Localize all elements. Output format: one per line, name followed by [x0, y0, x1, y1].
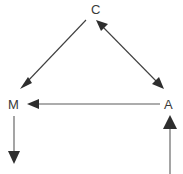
- edge-m-downward: [8, 116, 20, 164]
- edge-into-a-upward-arrowhead: [163, 115, 177, 129]
- diagram-canvas: [0, 0, 183, 174]
- causal-diagram: C M A: [0, 0, 183, 174]
- edge-a-to-m-arrowhead: [27, 99, 39, 109]
- edge-c-to-m: [20, 20, 86, 89]
- edge-c-a-bidirectional: [96, 20, 164, 89]
- node-label-c: C: [91, 3, 100, 16]
- edge-c-a-line: [101, 25, 158, 83]
- edge-m-downward-arrowhead: [8, 151, 20, 164]
- node-label-m: M: [8, 98, 19, 111]
- edge-a-to-m: [27, 99, 160, 109]
- edge-into-a-upward: [163, 115, 177, 174]
- edge-c-to-m-line: [26, 20, 86, 83]
- node-label-a: A: [164, 98, 173, 111]
- edge-c-a-arrowhead-at-c: [96, 20, 108, 31]
